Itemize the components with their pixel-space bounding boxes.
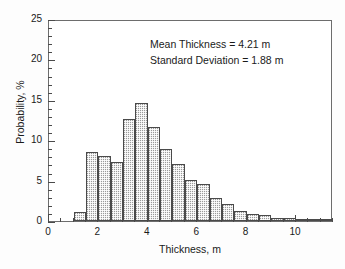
y-tick-minor [48,117,52,118]
y-tick-minor [48,68,52,69]
x-tick-label: 10 [280,226,310,237]
y-tick-label: 5 [16,175,42,186]
y-tick-label: 0 [16,215,42,226]
y-tick-minor [48,214,52,215]
y-tick-minor [48,165,52,166]
y-tick-label: 25 [16,13,42,24]
y-tick-major [48,222,55,223]
y-tick-minor [48,77,52,78]
y-tick-minor [48,149,52,150]
x-tick-label: 0 [33,226,63,237]
y-tick-minor [48,198,52,199]
y-tick-minor [48,44,52,45]
x-tick-label: 4 [132,226,162,237]
y-tick-minor [48,36,52,37]
y-tick-minor [48,85,52,86]
y-tick-minor [48,125,52,126]
y-tick-minor [48,157,52,158]
y-tick-major [48,101,55,102]
y-tick-minor [48,174,52,175]
y-tick-major [48,20,55,21]
y-tick-major [48,182,55,183]
x-tick-minor [332,218,333,222]
x-tick-label: 8 [231,226,261,237]
y-tick-minor [48,109,52,110]
x-tick-label: 6 [181,226,211,237]
mean-thickness-text: Mean Thickness = 4.21 m [150,36,283,52]
statistics-annotation: Mean Thickness = 4.21 m Standard Deviati… [150,36,283,68]
x-axis-title: Thickness, m [48,243,332,255]
y-tick-minor [48,190,52,191]
x-tick-label: 2 [82,226,112,237]
y-tick-minor [48,28,52,29]
y-tick-major [48,141,55,142]
standard-deviation-text: Standard Deviation = 1.88 m [150,52,283,68]
y-tick-minor [48,133,52,134]
y-tick-minor [48,206,52,207]
histogram-figure: 0246810 0510152025 Thickness, m Probabil… [0,0,345,269]
y-axis-title: Probability, % [14,52,26,172]
y-tick-minor [48,93,52,94]
y-tick-minor [48,52,52,53]
y-tick-major [48,60,55,61]
